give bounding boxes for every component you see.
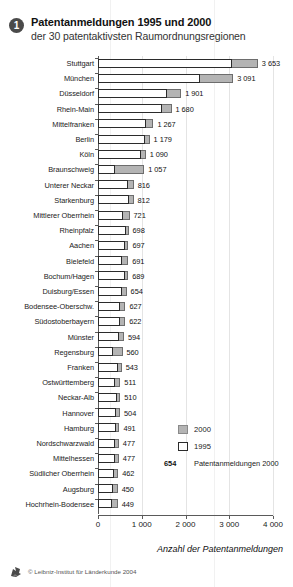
bar-row: Augsburg450 [0, 483, 293, 498]
x-tick-mark [229, 516, 230, 519]
bar-value-label: 1 901 [185, 89, 203, 98]
bar-1995 [98, 378, 115, 387]
x-tick-label: 1 000 [132, 520, 152, 529]
bar-1995 [98, 287, 122, 296]
bar-value-label: 689 [132, 272, 144, 281]
category-label: Rheinpfalz [60, 226, 94, 235]
bar-1995 [98, 89, 167, 98]
bar-value-label: 654 [131, 287, 143, 296]
bar-1995 [98, 59, 232, 68]
bar-row: Hamburg491 [0, 422, 293, 437]
category-label: Braunschweig [48, 165, 94, 174]
bar-row: Stuttgart3 653 [0, 57, 293, 72]
bar-row: Unterer Neckar816 [0, 179, 293, 194]
bar-1995 [98, 302, 120, 311]
x-tick-label: 3 000 [219, 520, 239, 529]
bar-value-label: 511 [124, 378, 136, 387]
bar-row: Regensburg560 [0, 346, 293, 361]
bar-row: Duisburg/Essen654 [0, 285, 293, 300]
bar-1995 [98, 195, 129, 204]
bar-row: Bodensee-Oberschw.627 [0, 300, 293, 315]
bar-1995 [98, 150, 141, 159]
bar-1995 [98, 256, 122, 265]
bar-chart: Stuttgart3 653München3 091Düsseldorf1 90… [0, 56, 293, 526]
x-tick-label: 4 000 [263, 520, 283, 529]
bar-value-label: 3 091 [237, 74, 255, 83]
bar-1995 [98, 135, 145, 144]
category-label: Ostwürttemberg [42, 378, 94, 387]
bar-row: Rheinpfalz698 [0, 224, 293, 239]
bar-1995 [98, 393, 117, 402]
bar-1995 [98, 74, 200, 83]
category-label: Mittelhessen [53, 454, 94, 463]
x-tick-mark [186, 516, 187, 519]
bar-value-label: 560 [127, 348, 139, 357]
bar-1995 [98, 332, 119, 341]
x-axis-label: Anzahl der Patentanmeldungen [0, 544, 283, 554]
bar-value-label: 477 [123, 454, 135, 463]
bar-value-label: 510 [124, 393, 136, 402]
bar-value-label: 1 090 [150, 150, 168, 159]
bar-1995 [98, 423, 116, 432]
bar-row: Franken543 [0, 361, 293, 376]
bar-value-label: 698 [133, 226, 145, 235]
legend-swatch-1995 [178, 442, 188, 451]
bar-1995 [98, 211, 123, 220]
bar-value-label: 691 [132, 257, 144, 266]
bar-1995 [98, 484, 113, 493]
leibniz-logo-icon [9, 565, 23, 579]
bar-value-label: 3 653 [262, 59, 280, 68]
bar-1995 [98, 119, 146, 128]
bar-row: Südostoberbayern622 [0, 315, 293, 330]
bar-value-label: 1 680 [176, 105, 194, 114]
bar-1995 [98, 363, 118, 372]
bar-1995 [98, 104, 162, 113]
category-label: Mittelfranken [52, 120, 94, 129]
category-label: Neckar-Alb [58, 393, 94, 402]
category-label: Bielefeld [66, 257, 94, 266]
bar-value-label: 622 [129, 317, 141, 326]
category-label: Berlin [75, 135, 94, 144]
bar-1995 [98, 271, 125, 280]
bar-1995 [98, 241, 125, 250]
category-label: Augsburg [63, 485, 94, 494]
legend-sample-value: 654 [164, 459, 176, 468]
bar-1995 [98, 347, 113, 356]
category-label: Hochrhein-Bodensee [25, 500, 94, 509]
category-label: Starkenburg [54, 196, 94, 205]
category-label: Duisburg/Essen [43, 287, 94, 296]
bar-value-label: 594 [128, 333, 140, 342]
bar-row: Mittlerer Oberrhein721 [0, 209, 293, 224]
category-label: Köln [79, 150, 94, 159]
bar-1995 [98, 469, 114, 478]
bar-row: Starkenburg812 [0, 194, 293, 209]
bar-value-label: 1 057 [148, 165, 166, 174]
category-label: Franken [67, 363, 94, 372]
bar-row: Hannover504 [0, 407, 293, 422]
bar-row: Düsseldorf1 901 [0, 87, 293, 102]
bar-value-label: 491 [123, 424, 135, 433]
figure-number-badge: 1 [9, 18, 24, 33]
page-subtitle: der 30 patentaktivsten Raumordnungsregio… [31, 30, 246, 42]
bar-1995 [98, 454, 115, 463]
bar-value-label: 450 [122, 485, 134, 494]
category-label: Bochum/Hagen [44, 272, 94, 281]
bar-row: Bielefeld691 [0, 255, 293, 270]
page-title: Patentanmeldungen 1995 und 2000 [31, 16, 211, 28]
bar-value-label: 812 [138, 196, 150, 205]
category-label: München [64, 74, 94, 83]
category-label: Düsseldorf [59, 89, 94, 98]
bar-row: Bochum/Hagen689 [0, 270, 293, 285]
bar-1995 [98, 408, 116, 417]
category-label: Hamburg [64, 424, 94, 433]
category-label: Mittlerer Oberrhein [33, 211, 94, 220]
x-tick-mark [273, 516, 274, 519]
category-label: Bodensee-Oberschw. [24, 302, 94, 311]
bar-value-label: 1 179 [154, 135, 172, 144]
copyright-text: © Leibniz-Institut für Länderkunde 2004 [28, 568, 136, 575]
legend-label-1995: 1995 [194, 442, 211, 451]
legend-label-2000: 2000 [194, 425, 211, 434]
bar-value-label: 449 [122, 500, 134, 509]
bar-value-label: 1 267 [157, 120, 175, 129]
chart-header: 1 Patentanmeldungen 1995 und 2000 der 30… [0, 14, 293, 54]
